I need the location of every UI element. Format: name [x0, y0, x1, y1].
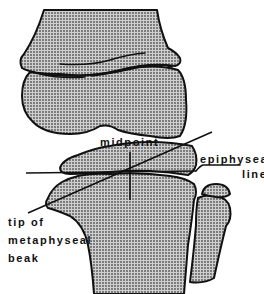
label-line: line	[242, 168, 264, 181]
label-epiphyseal: epiphyseal	[200, 153, 264, 166]
knee-diagram: midpoint epiphyseal line tip of metaphys…	[0, 0, 264, 294]
label-midpoint: midpoint	[100, 136, 159, 149]
fibula	[190, 195, 231, 282]
label-tip-of: tip of	[8, 216, 44, 229]
label-beak: beak	[8, 252, 39, 265]
fibular-epiphysis	[202, 184, 230, 197]
label-metaphyseal: metaphyseal	[8, 234, 92, 247]
femoral-epiphysis	[22, 66, 186, 138]
